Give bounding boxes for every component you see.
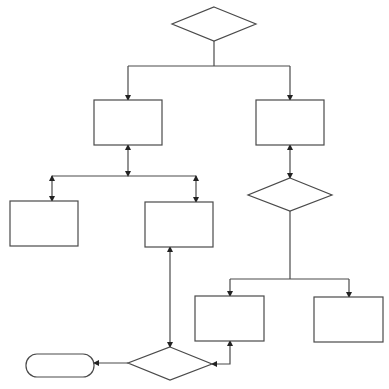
process-bottom-right-a[interactable]: [195, 296, 264, 341]
flowchart-canvas: [0, 0, 389, 389]
process-right[interactable]: [256, 100, 324, 145]
edge-right-decision-split: [230, 211, 349, 297]
edge-left-split: [52, 145, 196, 202]
terminator[interactable]: [26, 354, 94, 377]
decision-bottom[interactable]: [128, 347, 212, 380]
process-bottom-left-a[interactable]: [10, 201, 78, 246]
process-left[interactable]: [94, 100, 162, 145]
decision-top[interactable]: [172, 7, 256, 41]
process-bottom-left-b[interactable]: [145, 202, 213, 247]
process-bottom-right-b[interactable]: [314, 297, 383, 342]
decision-right[interactable]: [248, 178, 332, 211]
edge-top-split: [128, 41, 290, 100]
flowchart-svg: [0, 0, 389, 389]
